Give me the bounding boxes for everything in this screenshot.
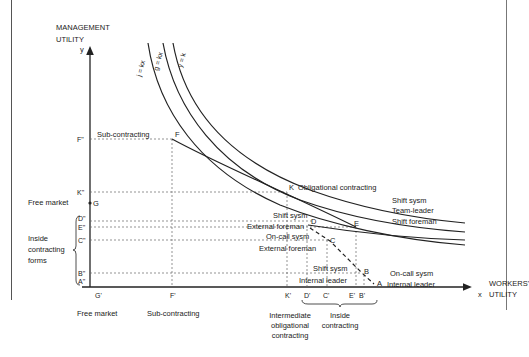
bottom-sub-contracting: Sub-contracting bbox=[147, 309, 200, 318]
y-tick-e: E" bbox=[78, 223, 85, 232]
annotation-on-call-sysm-c: On-call sysm bbox=[266, 232, 309, 241]
y-axis-symbol: y bbox=[80, 45, 84, 54]
bottom-intermediate-line2: obligational bbox=[260, 321, 320, 330]
y-tick-f: F" bbox=[77, 135, 84, 144]
annotation-on-call-sysm-a: On-call sysm bbox=[390, 269, 433, 278]
annotation-sub-contracting: Sub-contracting bbox=[97, 130, 150, 139]
x-tick-g: G' bbox=[95, 291, 102, 300]
y-tick-k: K" bbox=[77, 188, 84, 197]
y-tick-d: D" bbox=[78, 214, 86, 223]
annotation-shift-sysm-d: Shift sysm bbox=[273, 211, 308, 220]
x-axis-symbol: x bbox=[478, 290, 482, 299]
left-free-market: Free market bbox=[28, 198, 68, 207]
x-tick-k: K' bbox=[285, 291, 291, 300]
x-axis-title-line2: UTILITY bbox=[489, 290, 517, 299]
curve-label-j: j = kx bbox=[135, 59, 147, 78]
x-tick-f: F' bbox=[170, 291, 176, 300]
curve-label-y: y = k bbox=[176, 51, 188, 68]
curve-label-g: g = kx bbox=[152, 51, 165, 72]
y-tick-g: G bbox=[93, 199, 99, 208]
y-tick-c: C" bbox=[78, 236, 86, 245]
point-g-dot bbox=[88, 201, 91, 204]
bottom-free-market: Free market bbox=[77, 309, 117, 318]
x-axis-title-line1: WORKERS' bbox=[489, 279, 529, 288]
bottom-inside-line2: contracting bbox=[315, 321, 365, 330]
bottom-inside-line1: Inside bbox=[320, 311, 360, 320]
bottom-intermediate-line1: Intermediate bbox=[260, 311, 320, 320]
point-c: C bbox=[330, 236, 335, 245]
annotation-right-shift-sysm: Shift sysm bbox=[392, 196, 427, 205]
bottom-brace bbox=[302, 300, 377, 307]
x-tick-c: C' bbox=[323, 291, 329, 300]
annotation-internal-leader-b: Internal leader bbox=[299, 276, 347, 285]
annotation-right-team-leader: Team-leader bbox=[392, 206, 434, 215]
point-b: B bbox=[364, 267, 369, 276]
bottom-intermediate-line3: contracting bbox=[260, 331, 320, 340]
left-inside-line3: forms bbox=[28, 256, 47, 265]
point-e: E bbox=[354, 219, 359, 228]
point-d: D bbox=[311, 217, 316, 226]
y-tick-a: A" bbox=[78, 277, 85, 286]
x-tick-e: E' bbox=[349, 291, 355, 300]
point-k: K bbox=[289, 183, 294, 192]
annotation-external-foreman-d: External foreman bbox=[247, 222, 304, 231]
x-tick-b: B' bbox=[359, 291, 365, 300]
annotation-shift-sysm-b: Shift sysm bbox=[313, 264, 348, 273]
x-tick-d: D' bbox=[304, 291, 310, 300]
annotation-external-foreman-c: External foreman bbox=[259, 244, 316, 253]
point-f: F bbox=[175, 130, 180, 139]
y-axis-title-line2: UTILITY bbox=[56, 35, 84, 44]
left-inside-line2: contracting bbox=[28, 245, 65, 254]
annotation-obligational: Obligational contracting bbox=[298, 183, 376, 192]
left-inside-line1: Inside bbox=[28, 234, 48, 243]
annotation-internal-leader-a: Internal leader bbox=[387, 280, 435, 289]
y-axis-title-line1: MANAGEMENT bbox=[56, 23, 110, 32]
annotation-right-shift-foreman: Shift foreman bbox=[392, 217, 437, 226]
point-a: A bbox=[377, 279, 382, 288]
